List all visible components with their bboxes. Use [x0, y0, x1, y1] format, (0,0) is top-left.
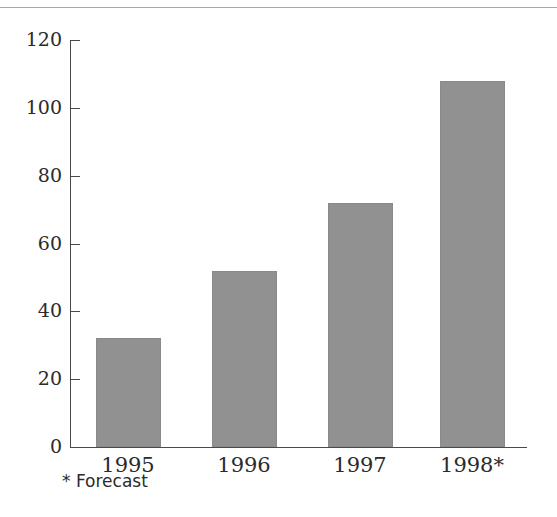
y-axis-label-20: 20 [6, 369, 62, 388]
bar-1998[interactable] [440, 81, 505, 447]
y-axis-label-120: 120 [6, 30, 62, 49]
bar-1995[interactable] [96, 338, 161, 447]
y-axis-label-80: 80 [6, 166, 62, 185]
y-axis-tick-80 [70, 176, 80, 177]
bar-chart-figure: 120 100 80 60 40 20 0 1995 1996 1997 199… [0, 0, 557, 517]
y-axis-label-80-wrap: 80 [0, 166, 62, 185]
x-axis-label-1996: 1996 [194, 452, 294, 478]
y-axis-label-120-wrap: 120 [0, 30, 62, 49]
y-axis-tick-100 [70, 108, 80, 109]
bar-1996[interactable] [212, 271, 277, 447]
y-axis-label-0: 0 [6, 437, 62, 456]
plot-area: 120 100 80 60 40 20 0 1995 1996 1997 199… [0, 0, 557, 517]
forecast-footnote: * Forecast [62, 470, 148, 492]
y-axis-label-20-wrap: 20 [0, 369, 62, 388]
y-axis-label-40-wrap: 40 [0, 301, 62, 320]
y-axis-tick-40 [70, 311, 80, 312]
x-axis-label-1998: 1998* [422, 452, 522, 478]
y-axis-label-60: 60 [6, 234, 62, 253]
y-axis-label-40: 40 [6, 301, 62, 320]
y-axis-tick-20 [70, 379, 80, 380]
y-axis-label-60-wrap: 60 [0, 234, 62, 253]
y-axis-label-100: 100 [6, 98, 62, 117]
bar-1997[interactable] [328, 203, 393, 447]
y-axis-tick-0 [70, 447, 80, 448]
x-axis-label-1997: 1997 [310, 452, 410, 478]
y-axis-label-100-wrap: 100 [0, 98, 62, 117]
y-axis-tick-60 [70, 244, 80, 245]
y-axis-tick-120 [70, 40, 80, 41]
y-axis-label-0-wrap: 0 [0, 437, 62, 456]
x-axis-line [70, 447, 527, 448]
